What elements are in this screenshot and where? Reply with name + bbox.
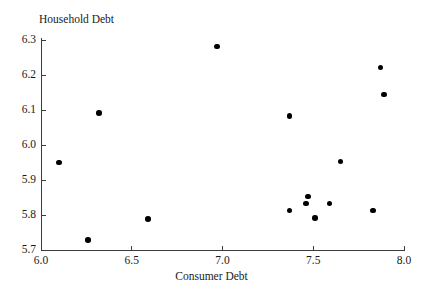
data-point: [370, 208, 376, 214]
data-point: [305, 194, 311, 200]
x-axis-title: Consumer Debt: [0, 271, 423, 283]
data-point: [96, 110, 102, 116]
data-point: [145, 216, 151, 222]
plot-area: [41, 38, 404, 250]
y-tick-label: 6.1: [2, 104, 36, 116]
scatter-plot-figure: Household Debt 5.75.85.96.06.16.26.3 6.0…: [0, 0, 423, 293]
data-point: [327, 201, 333, 207]
x-axis-line: [41, 250, 405, 251]
x-tick-label: 7.0: [203, 255, 243, 267]
y-tick-label: 5.9: [2, 174, 36, 186]
data-point: [214, 44, 220, 50]
data-point: [287, 208, 293, 214]
y-tick-label: 5.7: [2, 244, 36, 256]
x-tick-label: 6.0: [21, 255, 61, 267]
y-tick-label: 6.0: [2, 139, 36, 151]
x-tick-label: 8.0: [384, 255, 423, 267]
x-tick-label: 6.5: [112, 255, 152, 267]
data-point: [85, 237, 91, 243]
y-tick-label: 6.2: [2, 69, 36, 81]
x-tick-label: 7.5: [293, 255, 333, 267]
y-tick-label: 6.3: [2, 34, 36, 46]
data-point: [56, 160, 62, 166]
data-point: [287, 113, 293, 119]
data-point: [303, 201, 309, 207]
data-point: [312, 215, 318, 221]
y-tick-label: 5.8: [2, 209, 36, 221]
data-point: [378, 65, 384, 71]
data-point: [338, 159, 344, 165]
y-axis-title: Household Debt: [39, 14, 114, 26]
data-point: [381, 92, 387, 98]
